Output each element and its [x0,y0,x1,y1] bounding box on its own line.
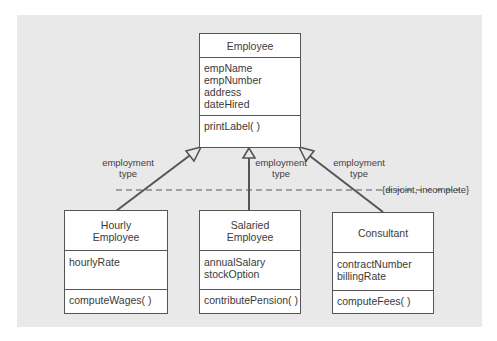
class-attributes: empName empNumber address dateHired [200,58,300,116]
class-name-text: Employee [65,231,167,243]
attribute: stockOption [204,268,296,280]
discriminator-label: employment type [329,157,389,179]
hollow-triangle-arrow-icon [186,147,201,161]
attribute: address [204,86,296,98]
discriminator-label: employment type [98,157,158,179]
class-salaried-employee[interactable]: Salaried Employee annualSalary stockOpti… [199,210,301,314]
class-name-text: Hourly [65,219,167,231]
attribute: dateHired [204,98,296,110]
attribute: empNumber [204,74,296,86]
discriminator-text: type [329,168,389,179]
discriminator-text: employment [98,157,158,168]
class-operations: computeFees( ) [333,291,433,311]
class-name: Employee [200,34,300,58]
class-hourly-employee[interactable]: Hourly Employee hourlyRate computeWages(… [64,210,168,314]
attribute: hourlyRate [69,256,163,268]
class-attributes: hourlyRate [65,251,167,290]
class-name: Salaried Employee [200,211,300,251]
class-operations: contributePension( ) [200,290,300,310]
class-attributes: annualSalary stockOption [200,251,300,290]
attribute: empName [204,62,296,74]
class-name-text: Employee [200,40,300,52]
discriminator-label: employment type [251,157,311,179]
class-name-text: Employee [200,231,300,243]
operation: computeFees( ) [337,295,429,307]
attribute: annualSalary [204,256,296,268]
discriminator-text: employment [329,157,389,168]
attribute: contractNumber [337,258,429,270]
class-employee[interactable]: Employee empName empNumber address dateH… [199,33,301,148]
class-attributes: contractNumber billingRate [333,253,433,291]
attribute: billingRate [337,270,429,282]
operation: computeWages( ) [69,294,163,306]
generalization-constraint: {disjoint, incomplete} [382,184,469,195]
operation: contributePension( ) [204,294,296,306]
operation: printLabel( ) [204,120,296,132]
class-name-text: Consultant [333,227,433,239]
class-name: Consultant [333,213,433,253]
discriminator-text: type [251,168,311,179]
class-name-text: Salaried [200,219,300,231]
class-operations: computeWages( ) [65,290,167,310]
discriminator-text: type [98,168,158,179]
discriminator-text: employment [251,157,311,168]
class-operations: printLabel( ) [200,116,300,136]
class-name: Hourly Employee [65,211,167,251]
class-consultant[interactable]: Consultant contractNumber billingRate co… [332,212,434,314]
